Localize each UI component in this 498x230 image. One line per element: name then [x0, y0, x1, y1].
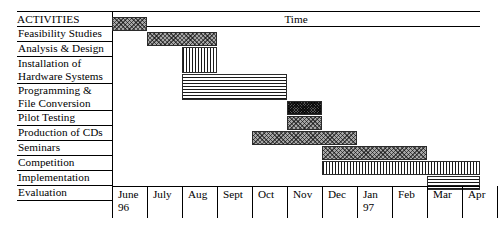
month-tick-nov: Nov: [287, 186, 322, 218]
gantt-bars-area: [112, 11, 480, 186]
month-tick-jan-97: Jan 97: [357, 186, 392, 218]
row-label-analysis-design: Analysis & Design: [17, 42, 112, 57]
row-label-feasibility-studies: Feasibility Studies: [17, 27, 112, 42]
gantt-bar-feasibility-studies: [112, 17, 147, 31]
gantt-bar-competition: [322, 146, 427, 160]
month-tick-aug: Aug: [182, 186, 217, 218]
gantt-bar-pilot-testing: [287, 101, 322, 115]
gantt-bar-programming-file-conversion: [182, 74, 287, 100]
row-label-production-of-cds: Production of CDs: [17, 126, 112, 141]
gantt-bar-installation-hardware: [182, 47, 217, 73]
row-label-installation-hardware: Installation of Hardware Systems: [17, 57, 112, 84]
row-label-pilot-testing: Pilot Testing: [17, 111, 112, 126]
month-tick-oct: Oct: [252, 186, 287, 218]
month-axis: June 96 July Aug Sept Oct Nov Dec Jan 97…: [112, 186, 480, 218]
gantt-bar-seminars: [252, 131, 357, 145]
gantt-bar-production-of-cds: [287, 116, 322, 130]
month-tick-july: July: [147, 186, 182, 218]
row-label-competition: Competition: [17, 156, 112, 171]
activities-header: ACTIVITIES: [17, 13, 112, 25]
row-label-seminars: Seminars: [17, 141, 112, 156]
month-tick-mar: Mar: [427, 186, 462, 218]
gantt-bar-analysis-design: [147, 32, 217, 46]
month-tick-dec: Dec: [322, 186, 357, 218]
month-tick-sept: Sept: [217, 186, 252, 218]
month-tick-apr: Apr: [462, 186, 498, 218]
month-tick-june-96: June 96: [112, 186, 147, 218]
month-tick-feb: Feb: [392, 186, 427, 218]
row-label-programming-file-conversion: Programming & File Conversion: [17, 84, 112, 111]
row-label-implementation: Implementation: [17, 171, 112, 186]
row-label-evaluation: Evaluation: [17, 186, 112, 201]
gantt-bar-implementation: [322, 161, 480, 175]
